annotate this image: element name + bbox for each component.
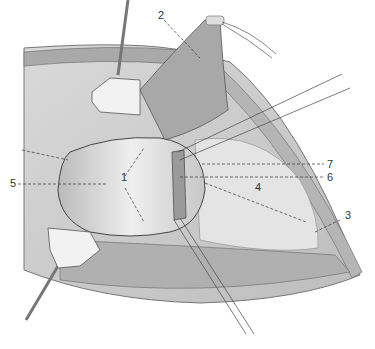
label-3: 3	[345, 210, 351, 221]
label-2: 2	[158, 10, 164, 21]
label-7: 7	[327, 159, 333, 170]
surgical-illustration	[0, 0, 375, 349]
label-1: 1	[121, 172, 127, 183]
label-4: 4	[255, 182, 261, 193]
label-5: 5	[10, 178, 16, 189]
label-6: 6	[327, 172, 333, 183]
figure-canvas: 1 2 3 4 5 6 7	[0, 0, 375, 349]
